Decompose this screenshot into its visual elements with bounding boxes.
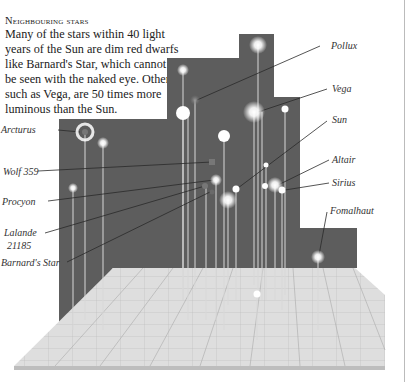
label-wolf359: Wolf 359 [3,166,38,178]
label-fomalhaut: Fomalhaut [330,205,374,217]
page-edge-rule [404,0,405,382]
star-sirius [279,187,286,194]
star-vega [243,101,265,123]
label-sirius: Sirius [332,177,355,189]
star-pollux [190,95,200,105]
star-procyon [210,174,222,186]
label-lalande: Lalande [4,227,37,239]
label-sun: Sun [332,114,347,126]
label-vega: Vega [332,83,351,95]
star-sun [233,186,240,193]
label-altair: Altair [332,154,355,166]
star-barnard [210,190,215,195]
label-procyon: Procyon [2,196,36,208]
star-wolf359 [209,159,215,165]
star-fomalhaut [311,250,325,264]
star-diagram [0,0,407,382]
label-arcturus: Arcturus [1,124,36,136]
label-lalande-number: 21185 [7,240,31,252]
label-pollux: Pollux [331,40,357,52]
star-lalande [202,183,208,189]
label-barnards-star: Barnard's Star [1,257,60,269]
